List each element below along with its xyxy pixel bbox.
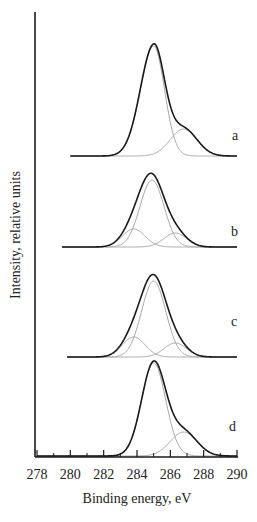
series-label-c: c <box>231 314 237 329</box>
component-peak-a <box>70 129 237 156</box>
envelope-spectrum-b <box>62 173 237 247</box>
plot-area <box>37 44 237 456</box>
envelope-spectrum-c <box>67 274 237 357</box>
x-tick-label: 288 <box>193 467 214 482</box>
series-labels: abcd <box>229 128 239 434</box>
x-tick-label: 284 <box>127 467 148 482</box>
component-peak-d <box>37 363 237 456</box>
y-axis-title: Intensity, relative units <box>8 171 23 299</box>
x-axis-title: Binding energy, eV <box>83 491 192 506</box>
component-peak-c <box>67 281 237 357</box>
component-peak-c <box>67 337 237 357</box>
x-tick-label: 290 <box>227 467 248 482</box>
series-label-a: a <box>232 128 239 143</box>
envelope-spectrum-d <box>37 361 237 456</box>
x-tick-label: 280 <box>60 467 81 482</box>
component-peak-b <box>62 229 237 247</box>
xps-chart: 278280282284286288290 Binding energy, eV… <box>0 0 257 522</box>
component-peak-a <box>70 46 237 156</box>
x-tick-labels: 278280282284286288290 <box>27 467 248 482</box>
x-tick-label: 286 <box>160 467 181 482</box>
series-label-b: b <box>231 224 238 239</box>
series-label-d: d <box>229 419 236 434</box>
envelope-spectrum-a <box>70 44 237 156</box>
x-tick-label: 278 <box>27 467 48 482</box>
component-peak-b <box>62 180 237 247</box>
component-peak-c <box>67 343 237 357</box>
x-tick-label: 282 <box>93 467 114 482</box>
